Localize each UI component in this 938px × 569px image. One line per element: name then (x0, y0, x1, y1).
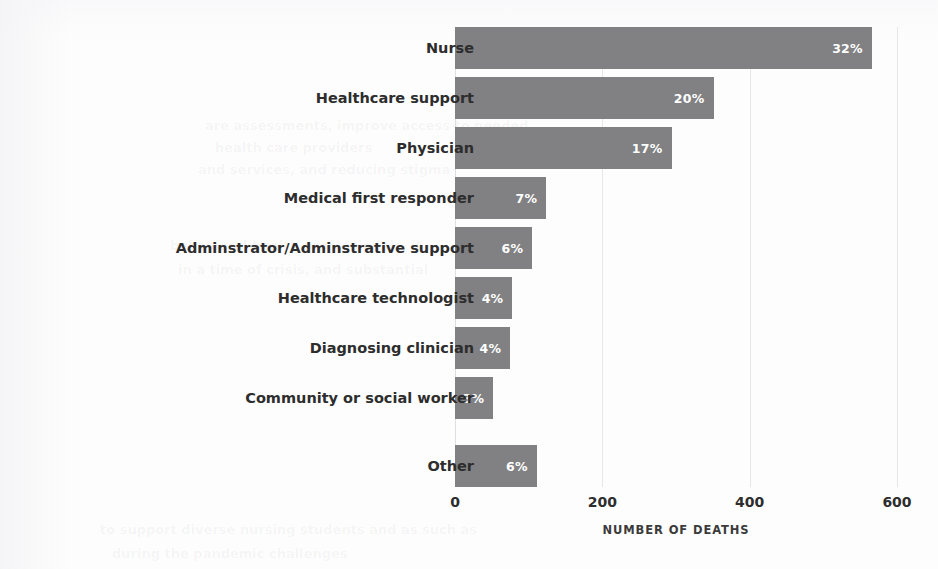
ghost-text-line7: during the pandemic challenges (112, 546, 348, 561)
bar[interactable]: 20% (455, 77, 714, 119)
gridline-400 (750, 27, 751, 487)
x-axis-title: NUMBER OF DEATHS (455, 523, 897, 537)
bar-value-label: 6% (502, 241, 533, 256)
category-label: Healthcare support (63, 77, 483, 119)
x-tick-label-400: 400 (735, 494, 764, 510)
category-label: Medical first responder (63, 177, 483, 219)
x-tick-label-200: 200 (588, 494, 617, 510)
bar[interactable]: 17% (455, 127, 672, 169)
ghost-text-line6: to support diverse nursing students and … (100, 522, 477, 537)
category-label: Other (63, 445, 483, 487)
x-tick-label-0: 0 (450, 494, 460, 510)
bar[interactable]: 32% (455, 27, 872, 69)
category-label: Adminstrator/Adminstrative support (63, 227, 483, 269)
bar-value-label: 4% (482, 291, 513, 306)
bar-value-label: 17% (632, 141, 672, 156)
category-label: Diagnosing clinician (63, 327, 483, 369)
gridline-600 (897, 27, 898, 487)
category-label: Community or social worker (63, 377, 483, 419)
bar-value-label: 7% (516, 191, 547, 206)
category-label: Nurse (63, 27, 483, 69)
bar-value-label: 6% (506, 459, 537, 474)
category-label: Physician (63, 127, 483, 169)
bar-value-label: 20% (674, 91, 714, 106)
bar-value-label: 32% (832, 41, 872, 56)
category-label: Healthcare technologist (63, 277, 483, 319)
x-tick-label-600: 600 (882, 494, 911, 510)
bar-chart: are assessments, improve access to neede… (0, 0, 938, 569)
bar-value-label: 4% (479, 341, 510, 356)
